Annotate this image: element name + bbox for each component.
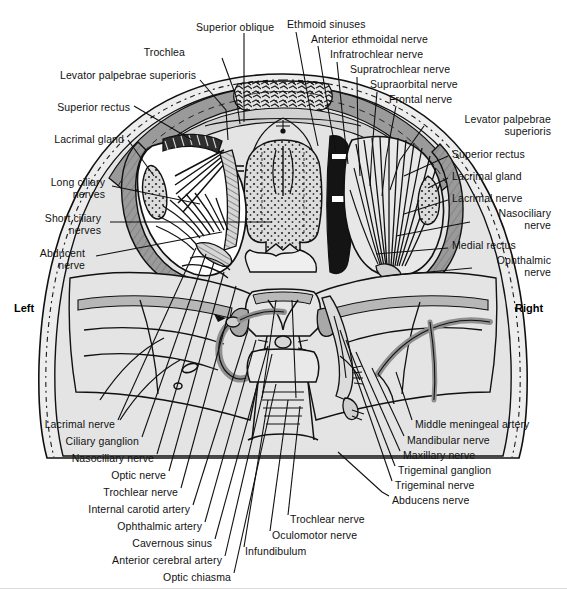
- orientation-right: Right: [515, 302, 543, 314]
- label-medial-rectus: Medial rectus: [452, 239, 516, 251]
- label-abducens-nerve: Abducens nerve: [392, 494, 469, 506]
- label-frontal-nerve: Frontal nerve: [389, 93, 452, 105]
- label-supratrochlear-nerve: Supratrochlear nerve: [350, 63, 450, 75]
- label-abducent-nerve: Abducent nerve: [15, 247, 85, 271]
- label-lacrimal-nerve-right: Lacrimal nerve: [452, 192, 522, 204]
- label-ophthalmic-artery: Ophthalmic artery: [96, 520, 202, 532]
- label-mandibular-nerve: Mandibular nerve: [407, 434, 490, 446]
- label-trigeminal-nerve: Trigeminal nerve: [395, 479, 475, 491]
- label-optic-nerve: Optic nerve: [96, 469, 166, 481]
- sphenoid-plate: [245, 250, 316, 272]
- label-ethmoid-sinuses: Ethmoid sinuses: [287, 18, 366, 30]
- anatomy-figure-page: Superior oblique Trochlea Levator palpeb…: [0, 0, 567, 589]
- label-superior-rectus-left: Superior rectus: [38, 101, 130, 113]
- label-infundibulum: Infundibulum: [245, 545, 306, 557]
- ethmoid-sinuses-block: [244, 140, 321, 252]
- label-short-ciliary-nerves: Short ciliary nerves: [21, 212, 101, 236]
- label-trochlea: Trochlea: [105, 46, 185, 58]
- label-nasociliary-nerve-bottom: Nasociliary nerve: [52, 452, 154, 464]
- label-trigeminal-ganglion: Trigeminal ganglion: [398, 464, 491, 476]
- orientation-left: Left: [14, 302, 34, 314]
- label-ophthalmic-nerve: Ophthalmic nerve: [452, 254, 551, 278]
- label-trochlear-nerve-left: Trochlear nerve: [88, 486, 178, 498]
- crista-galli: [280, 128, 285, 133]
- label-lacrimal-gland-left: Lacrimal gland: [32, 133, 124, 145]
- label-lacrimal-nerve-bottom: Lacrimal nerve: [25, 418, 115, 430]
- label-nasociliary-nerve-right: Nasociliary nerve: [452, 207, 551, 231]
- label-ciliary-ganglion: Ciliary ganglion: [45, 435, 139, 447]
- label-levator-palpebrae-superioris-right: Levator palpebrae superioris: [427, 113, 551, 137]
- label-superior-rectus-right: Superior rectus: [452, 148, 525, 160]
- anatomical-illustration: [0, 0, 567, 589]
- label-supraorbital-nerve: Supraorbital nerve: [370, 78, 458, 90]
- label-trochlear-nerve-center: Trochlear nerve: [290, 513, 365, 525]
- label-levator-palpebrae-superioris-left: Levator palpebrae superioris: [41, 69, 196, 81]
- label-optic-chiasma: Optic chiasma: [147, 571, 231, 583]
- label-cavernous-sinus: Cavernous sinus: [112, 537, 212, 549]
- label-internal-carotid-artery: Internal carotid artery: [60, 503, 190, 515]
- label-anterior-ethmoidal-nerve: Anterior ethmoidal nerve: [311, 33, 428, 45]
- label-oculomotor-nerve: Oculomotor nerve: [272, 529, 357, 541]
- label-superior-oblique: Superior oblique: [196, 21, 274, 33]
- label-lacrimal-gland-right: Lacrimal gland: [452, 170, 522, 182]
- label-infratrochlear-nerve: Infratrochlear nerve: [330, 48, 423, 60]
- label-middle-meningeal-artery: Middle meningeal artery: [415, 418, 529, 430]
- label-long-ciliary-nerves: Long ciliary nerves: [25, 176, 105, 200]
- label-anterior-cerebral-artery: Anterior cerebral artery: [84, 554, 222, 566]
- label-maxillary-nerve: Maxillary nerve: [403, 449, 475, 461]
